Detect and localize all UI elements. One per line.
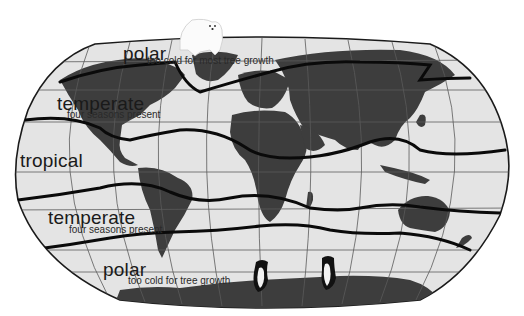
- zone-title: tropical: [20, 151, 83, 170]
- zone-polar-south-subtitle: too cold for tree growth: [128, 276, 230, 286]
- zone-temperate-north-subtitle: four seasons present: [67, 110, 160, 120]
- zone-polar-north-subtitle: too cold for most tree growth: [147, 56, 274, 66]
- zone-tropical: tropical: [20, 151, 83, 170]
- zone-temperate-south-subtitle: four seasons present: [69, 225, 162, 235]
